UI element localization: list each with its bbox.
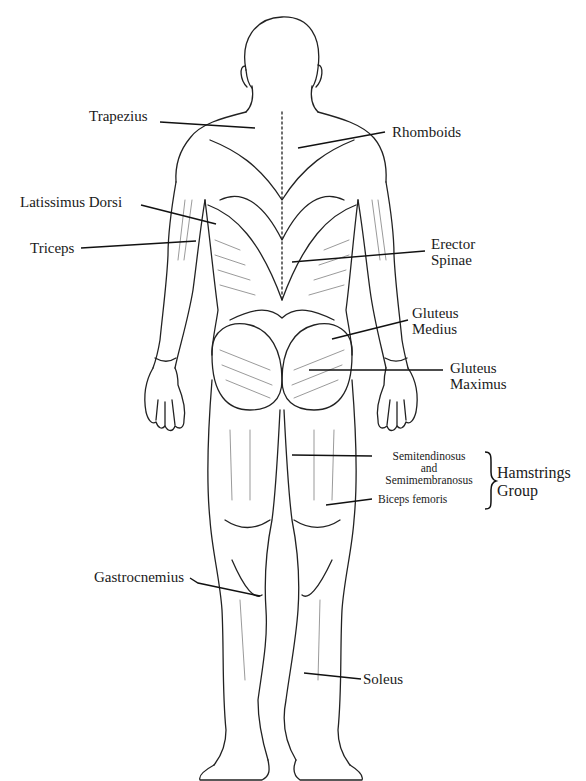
right-shoulder — [318, 112, 386, 182]
leader-gluteus-medius — [332, 320, 408, 339]
leader-semitendinosus — [292, 455, 372, 456]
label-semitendinosus-semimembranosus: Semitendinosus and Semimembranosus — [377, 450, 481, 486]
label-gluteus-maximus-line2: Maximus — [450, 376, 507, 392]
label-erector-spinae-line2: Spinae — [431, 252, 475, 268]
right-leg-outer — [338, 380, 356, 765]
right-leg-inner — [284, 410, 299, 760]
leader-triceps — [81, 241, 196, 248]
left-arm-inner — [175, 200, 205, 368]
left-leg-outer — [208, 380, 226, 765]
leader-gastrocnemius — [190, 578, 260, 596]
label-semimembranosus: Semimembranosus — [377, 474, 481, 486]
label-gluteus-medius: Gluteus Medius — [412, 305, 459, 337]
body-figure — [145, 17, 417, 780]
label-gastrocnemius: Gastrocnemius — [94, 569, 184, 585]
label-gluteus-maximus-line1: Gluteus — [450, 360, 507, 376]
label-gluteus-maximus: Gluteus Maximus — [450, 360, 507, 392]
label-triceps: Triceps — [30, 240, 74, 256]
label-and: and — [377, 462, 481, 474]
label-erector-spinae: Erector Spinae — [431, 236, 475, 268]
label-rhomboids: Rhomboids — [392, 124, 461, 140]
head-outline — [245, 17, 319, 88]
label-semitendinosus: Semitendinosus — [377, 450, 481, 462]
leader-erector-spinae — [292, 251, 425, 262]
label-latissimus-dorsi: Latissimus Dorsi — [20, 194, 122, 210]
label-trapezius: Trapezius — [89, 108, 148, 124]
leader-soleus — [304, 673, 361, 679]
left-leg-inner — [258, 410, 280, 760]
label-hamstrings-line1: Hamstrings — [497, 464, 571, 482]
hamstrings-brace — [485, 452, 496, 509]
gluteus-maximus-left — [212, 324, 282, 410]
label-gluteus-medius-line1: Gluteus — [412, 305, 459, 321]
leader-trapezius — [160, 122, 255, 128]
label-hamstrings-group: Hamstrings Group — [497, 464, 571, 500]
left-arm-outer — [153, 182, 176, 368]
label-erector-spinae-line1: Erector — [431, 236, 475, 252]
right-foot — [294, 760, 362, 780]
right-arm-outer — [386, 182, 408, 368]
label-soleus: Soleus — [363, 671, 403, 687]
torso-right — [346, 200, 358, 355]
label-biceps-femoris: Biceps femoris — [378, 493, 447, 505]
leader-biceps-femoris — [326, 499, 372, 505]
leader-latissimus-dorsi — [141, 205, 216, 224]
label-hamstrings-line2: Group — [497, 482, 571, 500]
left-foot — [200, 760, 269, 780]
right-arm-inner — [358, 200, 386, 368]
left-shoulder — [176, 112, 246, 182]
label-gluteus-medius-line2: Medius — [412, 321, 459, 337]
